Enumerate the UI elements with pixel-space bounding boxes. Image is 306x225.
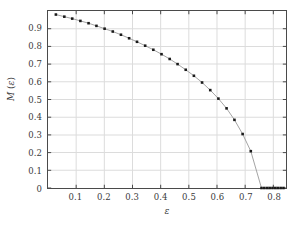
- data-point-marker: [79, 20, 82, 23]
- data-point-marker: [63, 15, 66, 18]
- y-tick-label: 0.3: [28, 130, 42, 140]
- data-point-marker: [274, 187, 277, 190]
- x-tick-label: 0.6: [210, 192, 224, 202]
- data-point-marker: [144, 44, 147, 47]
- data-point-marker: [279, 187, 282, 190]
- x-tick-label: 0.7: [239, 192, 253, 202]
- data-point-marker: [193, 74, 196, 77]
- data-point-marker: [282, 187, 285, 190]
- series-line: [56, 15, 284, 188]
- data-point-marker: [250, 150, 253, 153]
- x-tick-label: 0.8: [267, 192, 281, 202]
- data-point-marker: [128, 37, 131, 40]
- data-point-marker: [136, 41, 139, 44]
- chart-figure: 00.10.20.30.40.50.60.70.80.9 M (ε) 0.10.…: [0, 0, 306, 225]
- x-tick-label: 0.5: [182, 192, 196, 202]
- x-axis-tick-labels: 0.10.20.30.40.50.60.70.8: [47, 192, 287, 206]
- data-point-marker: [111, 30, 114, 33]
- plot-area: [47, 10, 287, 189]
- y-tick-label: 0.5: [28, 95, 42, 105]
- x-tick-label: 0.1: [68, 192, 82, 202]
- data-point-marker: [277, 187, 280, 190]
- data-point-marker: [263, 187, 266, 190]
- y-tick-label: 0.1: [28, 166, 42, 176]
- data-point-marker: [176, 63, 179, 66]
- data-point-marker: [225, 107, 228, 110]
- data-point-marker: [152, 48, 155, 51]
- y-axis-title: M (ε): [6, 54, 16, 124]
- data-point-marker: [268, 187, 271, 190]
- data-point-marker: [260, 187, 263, 190]
- data-point-marker: [168, 58, 171, 61]
- data-point-marker: [217, 97, 220, 100]
- data-point-marker: [241, 133, 244, 136]
- data-point-marker: [160, 53, 163, 56]
- data-point-marker: [95, 25, 98, 28]
- y-tick-label: 0.7: [28, 59, 42, 69]
- y-tick-label: 0: [36, 184, 42, 194]
- y-tick-label: 0.8: [28, 41, 42, 51]
- x-tick-label: 0.2: [97, 192, 111, 202]
- x-tick-label: 0.4: [154, 192, 168, 202]
- y-tick-label: 0.6: [28, 77, 42, 87]
- data-point-marker: [201, 81, 204, 84]
- x-tick-label: 0.3: [125, 192, 139, 202]
- y-tick-label: 0.2: [28, 148, 42, 158]
- data-point-marker: [266, 187, 269, 190]
- data-point-marker: [233, 119, 236, 122]
- data-point-marker: [271, 187, 274, 190]
- data-point-marker: [87, 22, 90, 25]
- data-point-marker: [71, 17, 74, 20]
- data-series-layer: [48, 11, 286, 188]
- data-point-marker: [120, 33, 123, 36]
- data-point-marker: [103, 27, 106, 30]
- x-axis-title: ε: [47, 206, 287, 216]
- data-point-marker: [209, 89, 212, 92]
- y-tick-label: 0.9: [28, 23, 42, 33]
- data-point-marker: [55, 13, 58, 16]
- y-tick-label: 0.4: [28, 112, 42, 122]
- data-point-marker: [184, 68, 187, 71]
